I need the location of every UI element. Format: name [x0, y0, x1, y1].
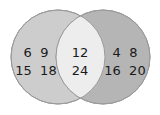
intersection-row-2: 24: [72, 63, 89, 78]
intersection-row-1: 12: [72, 45, 89, 60]
venn-diagram: 6 9 15 18 12 24 4 8 16 20: [0, 0, 160, 115]
left-row-2: 15 18: [15, 63, 56, 78]
right-row-2: 16 20: [104, 63, 145, 78]
left-row-1: 6 9: [24, 45, 49, 60]
right-row-1: 4 8: [113, 45, 138, 60]
